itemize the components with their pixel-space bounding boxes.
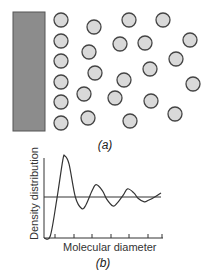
molecule bbox=[54, 75, 68, 89]
molecule bbox=[54, 116, 68, 130]
molecule bbox=[54, 13, 68, 27]
molecule bbox=[169, 52, 183, 66]
molecule bbox=[88, 66, 102, 80]
molecule bbox=[186, 77, 200, 91]
molecules-group bbox=[54, 13, 200, 130]
molecule bbox=[117, 73, 131, 87]
molecule bbox=[156, 13, 170, 27]
molecule bbox=[87, 20, 101, 34]
solid-wall bbox=[13, 12, 45, 131]
caption-b: (b) bbox=[88, 256, 118, 270]
molecule bbox=[54, 95, 68, 109]
molecule bbox=[122, 13, 136, 27]
molecule bbox=[143, 62, 157, 76]
molecule bbox=[77, 87, 91, 101]
molecule bbox=[123, 114, 137, 128]
x-axis-label: Molecular diameter bbox=[63, 241, 157, 253]
molecule bbox=[183, 33, 197, 47]
molecule bbox=[144, 94, 158, 108]
molecule bbox=[168, 107, 182, 121]
molecule bbox=[82, 45, 96, 59]
y-axis-label: Density distribution bbox=[28, 147, 40, 240]
caption-a: (a) bbox=[90, 138, 120, 152]
molecule bbox=[54, 34, 68, 48]
molecule bbox=[113, 37, 127, 51]
panel-b-density-chart bbox=[44, 155, 163, 239]
panel-a-molecules-near-wall bbox=[13, 12, 200, 131]
molecule bbox=[138, 36, 152, 50]
molecule bbox=[108, 91, 122, 105]
molecule bbox=[81, 111, 95, 125]
x-axis-ticks bbox=[55, 234, 162, 238]
molecule bbox=[54, 54, 68, 68]
